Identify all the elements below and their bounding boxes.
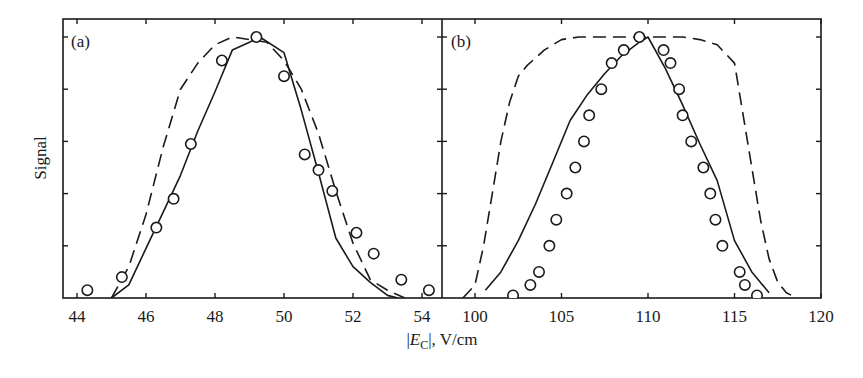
x-tick-label: 44 — [69, 307, 87, 326]
x-tick-label: 48 — [207, 307, 224, 326]
data-point-circle — [151, 222, 161, 232]
solid-curve — [112, 37, 398, 298]
data-point-circle — [313, 165, 323, 175]
data-point-circle — [658, 45, 668, 55]
data-point-circle — [561, 188, 571, 198]
data-point-circle — [570, 162, 580, 172]
dashed-curve — [112, 37, 405, 298]
panel-a: 444648505254 — [63, 19, 442, 326]
x-tick-label: 105 — [549, 307, 575, 326]
panel-a-label: (a) — [71, 32, 90, 51]
data-point-circle — [82, 285, 92, 295]
data-point-circle — [634, 32, 644, 42]
panel-b-label: (b) — [451, 32, 471, 51]
figure: 444648505254 100105110115120 (a) (b) Sig… — [0, 0, 863, 378]
data-point-circle — [596, 84, 606, 94]
data-point-circle — [584, 110, 594, 120]
data-point-circle — [710, 215, 720, 225]
data-point-circle — [686, 136, 696, 146]
data-point-circle — [705, 188, 715, 198]
x-tick-label: 110 — [636, 307, 661, 326]
panel-b: 100105110115120 — [442, 19, 834, 326]
x-axis-label: |EC|, V/cm — [406, 330, 477, 352]
x-tick-label: 50 — [276, 307, 293, 326]
x-tick-label: 120 — [808, 307, 834, 326]
x-tick-label: 115 — [722, 307, 747, 326]
data-point-circle — [674, 84, 684, 94]
dashed-curve — [463, 37, 797, 298]
data-point-circle — [717, 241, 727, 251]
x-tick-label: 54 — [414, 307, 432, 326]
data-point-circle — [734, 267, 744, 277]
data-point-circle — [579, 136, 589, 146]
data-point-circle — [525, 280, 535, 290]
data-point-circle — [168, 194, 178, 204]
data-point-circle — [369, 248, 379, 258]
data-point-circle — [351, 228, 361, 238]
data-point-circle — [665, 58, 675, 68]
data-point-circle — [327, 186, 337, 196]
data-point-circle — [117, 272, 127, 282]
data-point-circle — [396, 275, 406, 285]
data-point-circle — [279, 71, 289, 81]
data-point-circle — [606, 58, 616, 68]
data-point-circle — [424, 285, 434, 295]
data-point-circle — [677, 110, 687, 120]
data-point-circle — [251, 32, 261, 42]
data-point-circle — [534, 267, 544, 277]
data-point-circle — [508, 290, 518, 300]
data-point-circle — [544, 241, 554, 251]
x-tick-label: 100 — [462, 307, 488, 326]
data-point-circle — [186, 139, 196, 149]
x-tick-label: 52 — [345, 307, 362, 326]
data-point-circle — [619, 45, 629, 55]
data-point-circle — [217, 55, 227, 65]
data-point-circle — [551, 215, 561, 225]
data-point-circle — [752, 290, 762, 300]
data-point-circle — [300, 149, 310, 159]
data-point-circle — [740, 280, 750, 290]
solid-curve — [485, 37, 769, 293]
y-axis-label: Signal — [31, 136, 50, 180]
data-point-circle — [698, 162, 708, 172]
x-tick-label: 46 — [138, 307, 155, 326]
